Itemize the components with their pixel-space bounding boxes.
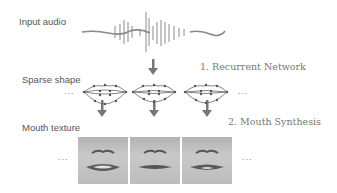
arrows (97, 59, 212, 117)
audio-waveform (82, 12, 225, 52)
mouth-texture-frame-2 (130, 137, 180, 184)
mouth-texture-frame-1 (78, 137, 128, 184)
mouth-texture-frame-3 (182, 137, 232, 184)
